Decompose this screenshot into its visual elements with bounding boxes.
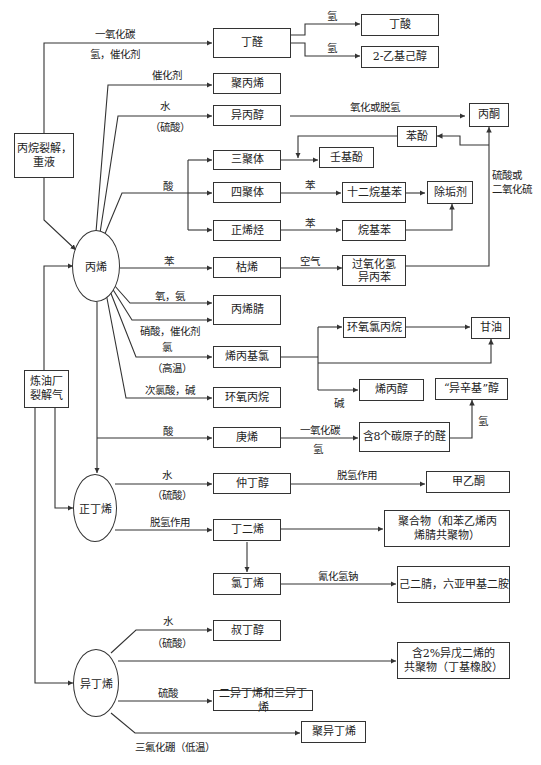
node-butyric-acid[interactable]: 丁酸 (361, 14, 439, 36)
edge-refinery-propylene (44, 266, 73, 370)
label-alkali: 碱 (334, 397, 344, 410)
edge-propylene-polypropylene (96, 85, 212, 232)
node-mek[interactable]: 甲乙酮 (426, 471, 510, 493)
edge-c8-isooctyl (450, 400, 472, 438)
edge-butyraldehyde-ethylhexanol (290, 43, 360, 56)
node-adiponitrile[interactable]: 己二腈，六亚甲基二胺 (397, 566, 510, 603)
label-h2-catalyst: 氢，催化剂 (90, 48, 140, 61)
node-alkylbenzene[interactable]: 烷基苯 (342, 220, 406, 241)
node-chloroprene[interactable]: 氯丁烯 (213, 573, 281, 595)
label-benzene-b: 苯 (305, 217, 315, 230)
node-butadiene[interactable]: 丁二烯 (213, 519, 281, 541)
node-propylene-oxide[interactable]: 环氧丙烷 (213, 387, 281, 408)
node-cumene[interactable]: 枯烯 (213, 257, 281, 278)
label-sulfuric-paren-c: （硫酸） (152, 637, 192, 650)
node-c8-aldehyde[interactable]: 含8个碳原子的醛 (359, 422, 450, 452)
node-allyl-chloride[interactable]: 烯丙基氯 (213, 346, 281, 368)
source-refinery-gas[interactable]: 炼油厂 裂解气 (24, 370, 69, 408)
edge-split-glycerol (318, 339, 491, 363)
node-allyl-alcohol[interactable]: 烯丙醇 (359, 379, 424, 401)
label-dehydrogenation-b: 脱氢作用 (150, 516, 190, 529)
node-acrylonitrile[interactable]: 丙烯腈 (213, 295, 281, 325)
node-dodecylbenzene[interactable]: 十二烷基苯 (342, 182, 406, 203)
label-catalyst: 催化剂 (152, 69, 182, 82)
node-polyisobutene[interactable]: 聚异丁烯 (301, 721, 366, 743)
label-acid: 酸 (163, 180, 173, 193)
node-isopropanol[interactable]: 异丙醇 (213, 105, 281, 126)
label-co: 一氧化碳 (95, 28, 135, 41)
node-propylene[interactable]: 丙烯 (72, 230, 120, 302)
edge-propylene-acid (104, 193, 188, 236)
label-sodium-cyanide: 氰化氢钠 (318, 570, 358, 583)
node-heptene[interactable]: 庚烯 (213, 427, 281, 448)
node-nonylphenol[interactable]: 壬基酚 (319, 147, 374, 168)
label-oxygen-ammonia: 氧，氨 (155, 290, 185, 303)
label-bf3: 三氟化硼（低温） (135, 741, 215, 754)
node-isobutene[interactable]: 异丁烯 (73, 649, 119, 717)
node-epichlorohydrin[interactable]: 环氧氯丙烷 (343, 317, 406, 338)
edge-hydroperoxide-phenol (437, 136, 489, 145)
node-butyraldehyde[interactable]: 丁醛 (213, 28, 291, 58)
node-acetone[interactable]: 丙酮 (469, 103, 509, 127)
node-cumene-hydroperoxide[interactable]: 过氧化氢 异丙苯 (342, 255, 406, 286)
label-water-b: 水 (162, 469, 172, 482)
label-h2-a: 氢 (327, 10, 337, 23)
source-propane-cracking[interactable]: 丙烷裂解， 重液 (14, 133, 74, 178)
label-sulfuric: 硫酸 (158, 687, 178, 700)
label-sulfuric-paren: （硫酸） (150, 121, 190, 134)
node-n-butene[interactable]: 正丁烯 (73, 474, 117, 542)
node-ethylhexanol[interactable]: 2-乙基己醇 (361, 46, 439, 68)
node-n-olefin[interactable]: 正烯烃 (213, 220, 281, 241)
label-high-temp: （高温） (152, 362, 192, 375)
node-detergent[interactable]: 除垢剂 (427, 181, 473, 204)
label-dehydrogenation-a: 脱氢作用 (337, 469, 377, 482)
node-trimer[interactable]: 三聚体 (213, 150, 281, 170)
label-co-b: 一氧化碳 (300, 424, 340, 437)
node-glycerol[interactable]: 甘油 (471, 317, 510, 339)
label-h2-b: 氢 (327, 42, 337, 55)
edge-propylene-oxide (106, 293, 212, 398)
label-benzene-a: 苯 (305, 179, 315, 192)
edge-source-propylene (44, 178, 76, 250)
edge-refinery-nbutene (55, 408, 73, 508)
node-tert-butanol[interactable]: 叔丁醇 (213, 620, 281, 641)
node-isooctyl-alcohol[interactable]: “异辛基”醇 (435, 378, 508, 400)
label-h2-d: 氢 (478, 415, 488, 428)
flow-diagram: 丙烷裂解， 重液 炼油厂 裂解气 丙烯 正丁烯 异丁烯 丁醛 丁酸 2-乙基己醇… (0, 0, 541, 765)
node-butyl-rubber[interactable]: 含2%异戊二烯的 共聚物（丁基橡胶） (397, 642, 510, 679)
edge-refinery-isobutene (35, 408, 73, 683)
edge-isobutene-polyisobutene (111, 713, 300, 733)
node-tetramer[interactable]: 四聚体 (213, 182, 281, 203)
node-polymer[interactable]: 聚合物（和苯乙烯丙 烯腈共聚物） (384, 510, 510, 547)
node-sec-butanol[interactable]: 仲丁醇 (213, 473, 291, 494)
label-nitric-catalyst: 硝酸，催化剂 (140, 325, 200, 338)
label-h2-c: 氢 (313, 443, 323, 456)
node-di-tri-isobutene[interactable]: 二异丁烯和三异丁烯 (213, 690, 313, 711)
label-hypochlorous: 次氯酸，碱 (145, 384, 195, 397)
label-water: 水 (160, 100, 170, 113)
label-sulfuric-paren-b: （硫酸） (152, 489, 192, 502)
label-acid-heptene: 酸 (163, 425, 173, 438)
label-oxidation: 氧化或脱氢 (350, 101, 400, 114)
label-air: 空气 (300, 255, 320, 268)
label-water-c: 水 (163, 615, 173, 628)
edge-butyraldehyde-branch (290, 24, 360, 35)
edge-alkylbenzene-detergent (405, 204, 452, 230)
label-sulfuric-or-so2: 硫酸或 二氧化硫 (492, 168, 532, 196)
label-chlorine: 氯 (162, 341, 172, 354)
node-phenol[interactable]: 苯酚 (397, 126, 437, 147)
label-benzene-c: 苯 (164, 255, 174, 268)
node-polypropylene[interactable]: 聚丙烯 (213, 73, 281, 94)
